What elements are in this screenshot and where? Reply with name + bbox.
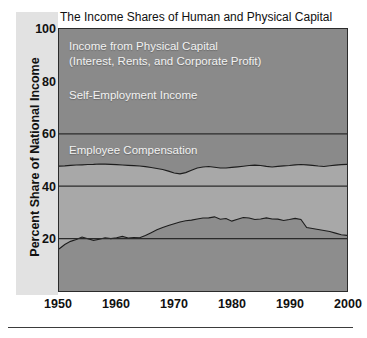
y-tick-40: 40 (16, 180, 56, 194)
band-label-self-employment: Self-Employment Income (69, 89, 197, 101)
stacked-area-svg (59, 29, 347, 291)
chart-title: The Income Shares of Human and Physical … (60, 10, 332, 24)
band-label-physical-capital-line2: (Interest, Rents, and Corporate Profit) (69, 55, 261, 67)
x-tick-1980: 1980 (210, 297, 254, 311)
y-tick-80: 80 (16, 75, 56, 89)
plot-area: Income from Physical Capital (Interest, … (58, 28, 348, 292)
band-label-employee-compensation: Employee Compensation (69, 144, 198, 156)
x-tick-2000: 2000 (326, 297, 367, 311)
y-tick-100: 100 (16, 22, 56, 36)
x-tick-1960: 1960 (94, 297, 138, 311)
y-tick-60: 60 (16, 127, 56, 141)
x-tick-1970: 1970 (152, 297, 196, 311)
x-tick-1950: 1950 (36, 297, 80, 311)
y-tick-20: 20 (16, 232, 56, 246)
bottom-divider (8, 327, 353, 328)
x-tick-1990: 1990 (268, 297, 312, 311)
band-label-physical-capital-line1: Income from Physical Capital (69, 40, 218, 52)
